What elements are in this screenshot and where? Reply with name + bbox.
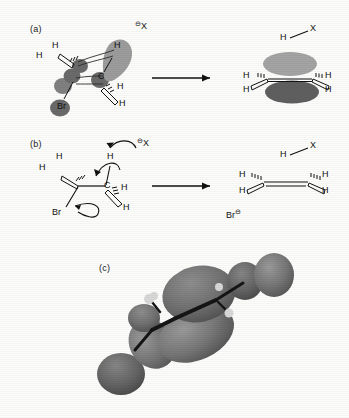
mo-hydrogen-right <box>225 309 234 318</box>
mo-lobe-upper-right-outer <box>254 253 294 297</box>
figure-canvas: (a) <box>0 0 349 418</box>
mo-hydrogen-top <box>215 283 223 291</box>
mo-hydrogen-left-2 <box>150 292 158 300</box>
panel-c-graphics <box>0 0 349 418</box>
